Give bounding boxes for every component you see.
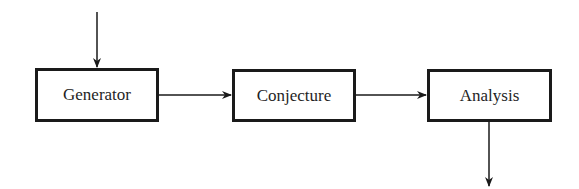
conjecture-node: Conjecture [232,69,356,122]
generator-node: Generator [35,68,159,122]
analysis-node: Analysis [427,69,552,122]
conjecture-label: Conjecture [257,86,332,106]
flowchart-diagram: Generator Conjecture Analysis [0,0,579,189]
analysis-label: Analysis [460,86,520,106]
generator-label: Generator [63,85,131,105]
